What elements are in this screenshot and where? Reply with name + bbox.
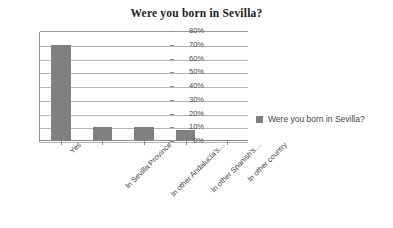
y-axis-tick-mark <box>170 114 174 115</box>
legend-label: Were you born in Sevilla? <box>268 114 365 124</box>
bar-slot <box>40 32 82 141</box>
y-axis-tick-label: 10% <box>174 123 204 131</box>
x-axis-tick-label: Yes <box>68 141 82 155</box>
x-axis-tick-label: In Sevilla Province <box>124 141 173 190</box>
y-axis-tick-label: 70% <box>174 41 204 49</box>
legend-swatch-icon <box>256 116 263 123</box>
y-axis-tick-label: 50% <box>174 68 204 76</box>
bar[interactable] <box>51 45 71 141</box>
y-axis-tick-mark <box>170 127 174 128</box>
bar-slot <box>123 32 165 141</box>
y-axis-tick-label: 60% <box>174 55 204 63</box>
bar-series <box>40 32 248 141</box>
y-axis-tick-label: 20% <box>174 110 204 118</box>
x-axis-tick-labels: YesIn Sevilla ProvinceIn other Andalucía… <box>40 141 248 201</box>
y-axis-tick-mark <box>170 59 174 60</box>
plot-area <box>40 31 248 141</box>
plot-area-wrapper: 0%10%20%30%40%50%60%70%80% <box>40 31 248 141</box>
y-axis-tick-mark <box>170 100 174 101</box>
y-axis-tick-label: 30% <box>174 96 204 104</box>
y-axis-tick-label: 40% <box>174 82 204 90</box>
y-axis-tick-mark <box>170 45 174 46</box>
y-axis-tick-mark <box>170 86 174 87</box>
bar-slot <box>82 32 124 141</box>
y-axis-tick-mark <box>170 31 174 32</box>
chart-container: Were you born in Sevilla? 0%10%20%30%40%… <box>0 0 393 228</box>
chart-title: Were you born in Sevilla? <box>0 7 393 19</box>
bar[interactable] <box>134 127 154 141</box>
bar-slot <box>206 32 248 141</box>
y-axis-tick-mark <box>170 72 174 73</box>
bar[interactable] <box>93 127 113 141</box>
y-axis-tick-label: 80% <box>174 27 204 35</box>
chart-legend: Were you born in Sevilla? <box>256 114 365 124</box>
